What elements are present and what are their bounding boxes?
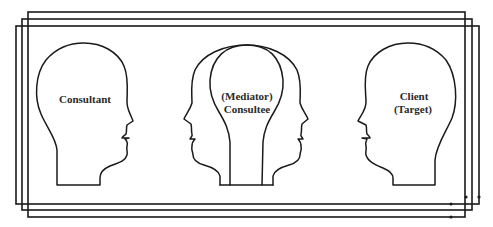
diagram-canvas: Consultant (Mediator) Consultee Client: [0, 0, 493, 227]
client-head: Client (Target): [358, 43, 456, 185]
consultant-head-outline-icon: [37, 43, 133, 185]
consultee-head: (Mediator) Consultee: [184, 45, 308, 185]
junction-dot: [477, 195, 480, 198]
client-label-line1: Client: [400, 90, 429, 102]
client-label-line2: (Target): [394, 103, 432, 116]
consultee-right-facing-outline-icon: [210, 45, 308, 185]
frame-back: [16, 26, 479, 204]
consultant-label: Consultant: [59, 93, 111, 105]
junction-dot: [449, 215, 452, 218]
consultee-label-line1: (Mediator): [221, 90, 273, 103]
junction-dot: [449, 202, 452, 205]
consultee-left-facing-outline-icon: [184, 45, 283, 185]
consultant-head: Consultant: [37, 43, 133, 185]
junction-dot: [464, 195, 467, 198]
consultation-diagram: Consultant (Mediator) Consultee Client: [0, 0, 493, 227]
consultee-label-line2: Consultee: [224, 103, 271, 115]
